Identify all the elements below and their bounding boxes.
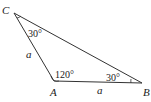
triangle-diagram: C A B 30° 120° 30° a a (0, 0, 151, 102)
angle-label-a: 120° (55, 69, 74, 80)
side-label-ca: a (26, 48, 32, 60)
vertex-label-a: A (49, 86, 57, 98)
vertex-label-c: C (2, 4, 10, 16)
vertex-label-b: B (143, 86, 150, 98)
side-label-ab: a (97, 84, 103, 96)
angle-label-b: 30° (106, 72, 120, 83)
triangle-abc (14, 13, 142, 83)
triangle-svg: C A B 30° 120° 30° a a (0, 0, 151, 102)
angle-label-c: 30° (28, 28, 42, 39)
